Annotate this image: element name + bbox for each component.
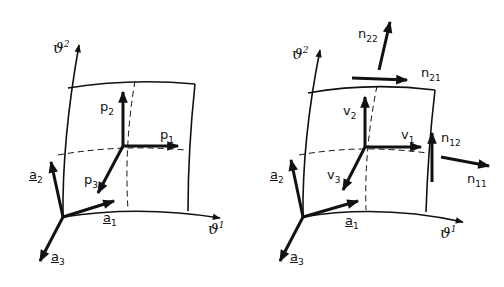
theta1-axis: [303, 212, 463, 222]
theta2-axis: [303, 50, 320, 217]
n21-label: n21: [421, 66, 441, 83]
n22-arrow: [379, 22, 390, 70]
a2-arrow: [291, 160, 303, 217]
n12-label: n12: [441, 131, 461, 148]
v1-label: v1: [401, 128, 414, 145]
p3-label: p3: [84, 173, 98, 190]
n11-label: n11: [467, 172, 487, 189]
theta1-label: ϑ1: [208, 221, 224, 237]
v3-arrow: [343, 147, 365, 190]
a2-arrow: [51, 162, 63, 217]
p1-label: p1: [160, 128, 174, 145]
theta2-label: ϑ2: [292, 46, 308, 62]
panel-top-edge: [308, 87, 435, 93]
n11-arrow: [441, 157, 489, 166]
theta2-label: ϑ2: [53, 40, 69, 56]
a3-label: a3: [290, 250, 304, 267]
p2-label: p2: [100, 100, 114, 117]
left-figure: [40, 45, 220, 261]
v3-label: v3: [327, 168, 340, 185]
a1-label: a1: [103, 211, 117, 228]
diagram-canvas: [0, 0, 504, 287]
v2-label: v2: [343, 104, 356, 121]
n21-arrow: [352, 78, 407, 80]
n22-label: n22: [358, 27, 378, 44]
panel-right-edge: [188, 84, 195, 211]
theta2-axis: [63, 45, 79, 217]
theta1-label: ϑ1: [440, 225, 456, 241]
panel-top-edge: [68, 82, 195, 88]
a3-label: a3: [51, 250, 65, 267]
p3-arrow: [98, 146, 123, 193]
a2-label: a2: [29, 168, 43, 185]
theta1-axis: [63, 211, 220, 218]
a1-label: a1: [345, 214, 359, 231]
a2-label: a2: [270, 168, 284, 185]
